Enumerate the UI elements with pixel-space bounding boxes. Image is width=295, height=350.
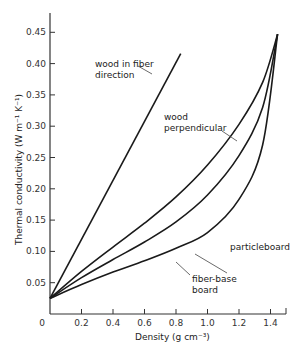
y-ticks: 0.050.100.150.200.250.300.350.400.45: [26, 27, 55, 287]
y-tick-label: 0.15: [26, 215, 46, 225]
x-tick-label: 1.0: [200, 318, 215, 328]
label-particleboard: particleboard: [230, 242, 290, 252]
x-tick-label: 0.6: [137, 318, 152, 328]
x-tick-label: 0.2: [74, 318, 88, 328]
x-tick-label: 0.8: [169, 318, 184, 328]
y-tick-label: 0.30: [26, 121, 46, 131]
label-fiber-direction-1: wood in fiber: [95, 59, 154, 69]
y-tick-label: 0.25: [26, 153, 46, 163]
y-tick-label: 0.35: [26, 90, 46, 100]
label-fiber-direction-2: direction: [95, 70, 134, 80]
label-wood-perp-2: perpendicular: [164, 123, 227, 133]
y-tick-label: 0.20: [26, 184, 46, 194]
label-fiber-base-2: board: [192, 285, 218, 295]
curve-particleboard: [50, 34, 278, 298]
label-wood-perp-1: wood: [164, 112, 188, 122]
curve-fiber-base-board: [50, 34, 278, 298]
y-tick-label: 0.10: [26, 246, 46, 256]
x-axis-label: Density (g cm⁻³): [135, 332, 210, 342]
x-tick-label: 0: [39, 318, 45, 328]
chart: 0.050.100.150.200.250.300.350.400.45 00.…: [0, 0, 295, 350]
curves: [50, 34, 278, 298]
x-ticks: 00.20.40.60.81.01.21.4: [39, 308, 286, 328]
y-tick-label: 0.05: [26, 278, 46, 288]
y-tick-label: 0.45: [26, 27, 46, 37]
x-tick-label: 1.2: [232, 318, 246, 328]
curve-wood-perpendicular: [50, 34, 278, 298]
y-axis-label: Thermal conductivity (W m⁻¹ K⁻¹): [14, 94, 24, 246]
label-fiber-base-1: fiber-base: [192, 274, 237, 284]
x-tick-label: 1.4: [263, 318, 278, 328]
curve-wood-in-fiber-direction: [50, 54, 181, 299]
y-tick-label: 0.40: [26, 59, 46, 69]
x-tick-label: 0.4: [106, 318, 121, 328]
